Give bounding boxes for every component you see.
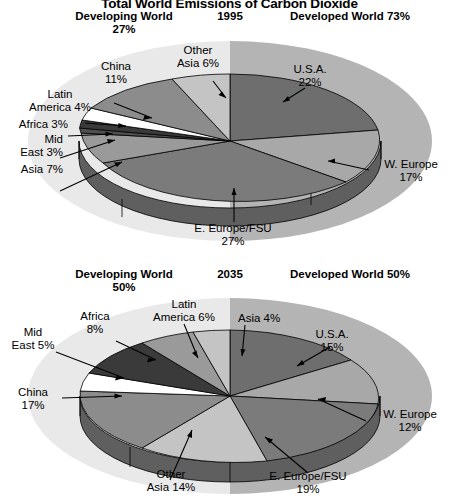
label-africa-2035: Africa 8% — [66, 310, 124, 335]
label-china-1995: China 11% — [86, 60, 146, 85]
label-latin-america-2035: Latin America 6% — [136, 298, 232, 323]
label-mid-east-2035: Mid East 5% — [2, 326, 64, 351]
label-africa-1995: Africa 3% — [0, 118, 68, 131]
label-e-europe-fsu-2035: E. Europe/FSU 19% — [242, 470, 374, 495]
label-asia-2035: Asia 4% — [238, 312, 308, 325]
label-e-europe-fsu-1995: E. Europe/FSU 27% — [166, 222, 300, 247]
label-mid-east-1995: Mid East 3% — [0, 133, 63, 158]
label-w-europe-1995: W. Europe 17% — [370, 158, 452, 183]
label-usa-1995: U.S.A. 22% — [282, 63, 338, 88]
chart-panel-2035: Developing World 50% 2035 Developed Worl… — [0, 268, 459, 500]
label-latin-america-1995: Latin America 4% — [18, 88, 102, 113]
label-w-europe-2035: W. Europe 12% — [368, 408, 452, 433]
figure-root: Total World Emissions of Carbon Dioxide … — [0, 0, 459, 500]
label-other-asia-1995: Other Asia 6% — [166, 44, 230, 69]
chart-panel-1995: Developing World 27% 1995 Developed Worl… — [0, 10, 459, 265]
label-asia-1995: Asia 7% — [0, 163, 63, 176]
label-china-2035: China 17% — [2, 386, 64, 411]
label-other-asia-2035: Other Asia 14% — [134, 468, 208, 493]
label-usa-2035: U.S.A. 15% — [304, 328, 360, 353]
